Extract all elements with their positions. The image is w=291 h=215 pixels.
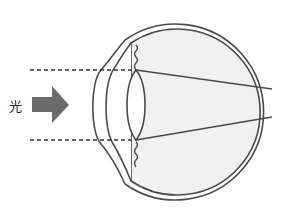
cornea <box>93 40 131 184</box>
light-arrow-icon <box>32 86 69 123</box>
light-label: 光 <box>9 96 22 115</box>
lens <box>127 70 145 140</box>
eye-diagram <box>0 0 291 215</box>
sclera <box>125 24 264 200</box>
